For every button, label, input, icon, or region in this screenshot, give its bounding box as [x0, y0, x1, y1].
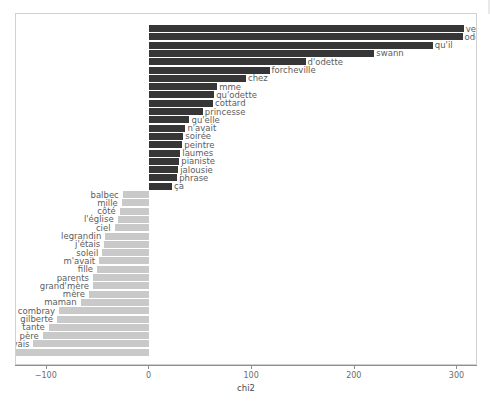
- bar-label: chez: [248, 74, 268, 82]
- bar: [81, 299, 150, 306]
- bar-label: j'avais: [15, 340, 29, 348]
- bar: [149, 141, 182, 148]
- chart-root: verdurinodettequ'ilswannd'odetteforchevi…: [0, 0, 490, 401]
- bar: [149, 91, 214, 98]
- bar: [149, 150, 180, 157]
- bar: [149, 174, 177, 181]
- x-axis-tick: [354, 365, 355, 369]
- bar: [149, 183, 172, 190]
- bar: [97, 266, 149, 273]
- bar: [59, 307, 149, 314]
- bar: [149, 108, 202, 115]
- bar: [93, 282, 149, 289]
- bar: [149, 33, 462, 40]
- x-axis-line: [15, 365, 477, 366]
- bar: [122, 199, 150, 206]
- bar-label: ça: [174, 182, 184, 190]
- bar: [149, 158, 179, 165]
- bar: [49, 324, 150, 331]
- x-axis-label: chi2: [15, 383, 477, 393]
- bar-label: swann: [376, 49, 403, 57]
- bar: [115, 224, 150, 231]
- bar: [149, 25, 463, 32]
- bar: [15, 349, 149, 356]
- bar: [149, 133, 183, 140]
- bar-label: forcheville: [272, 66, 316, 74]
- bar-label: cottard: [215, 99, 246, 107]
- plot-panel: verdurinodettequ'ilswannd'odetteforchevi…: [15, 13, 477, 365]
- bar: [149, 75, 246, 82]
- bar: [118, 216, 150, 223]
- bar: [99, 257, 149, 264]
- bar: [104, 241, 149, 248]
- bar: [149, 100, 213, 107]
- bar: [149, 50, 374, 57]
- bar: [57, 316, 149, 323]
- x-axis-tick: [46, 365, 47, 369]
- bar-label: fille: [78, 265, 93, 273]
- x-axis-tick: [251, 365, 252, 369]
- bar-label: odette: [465, 33, 477, 41]
- bar: [149, 83, 217, 90]
- bar-label: qu'il: [435, 41, 453, 49]
- x-axis-tick-label: 300: [449, 371, 464, 380]
- x-axis-tick-label: 200: [346, 371, 361, 380]
- bar: [89, 291, 150, 298]
- x-axis: −1000100200300: [15, 365, 477, 366]
- bar: [120, 208, 150, 215]
- bar: [93, 274, 149, 281]
- bar: [33, 340, 149, 347]
- bar: [105, 233, 149, 240]
- bar: [149, 116, 189, 123]
- x-axis-tick: [456, 365, 457, 369]
- bar: [123, 191, 150, 198]
- bar: [43, 332, 150, 339]
- x-axis-tick: [148, 365, 149, 369]
- bar: [149, 166, 178, 173]
- x-axis-tick-label: −100: [35, 371, 57, 380]
- bar: [102, 249, 149, 256]
- x-axis-tick-label: 100: [243, 371, 258, 380]
- x-axis-tick-label: 0: [146, 371, 151, 380]
- bar: [149, 125, 185, 132]
